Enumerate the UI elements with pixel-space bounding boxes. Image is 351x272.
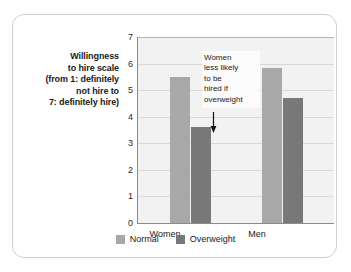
gridline-7 [138,37,334,38]
y-axis-title-line: not hire to [19,86,119,98]
y-tick-4: 4 [117,113,133,122]
chart-legend: Normal Overweight [0,234,351,244]
y-axis-title-line: 7: definitely hire) [19,97,119,109]
annotation-line: hired if [204,84,258,94]
annotation-line: less likely [204,63,258,73]
y-axis-title-line: Willingness [19,51,119,63]
gridline-1 [138,196,334,197]
y-tick-7: 7 [117,33,133,42]
bar-women-overweight [191,127,211,223]
annotation-line: Women [204,53,258,63]
gridline-4 [138,117,334,118]
y-axis-title-line: to hire scale [19,63,119,75]
y-tick-6: 6 [117,60,133,69]
legend-label-overweight: Overweight [190,234,236,244]
gridline-2 [138,170,334,171]
y-tick-5: 5 [117,86,133,95]
y-tick-2: 2 [117,166,133,175]
figure-frame: Willingness to hire scale (from 1: defin… [12,14,337,258]
y-axis-title-line: (from 1: definitely [19,74,119,86]
legend-swatch-overweight [176,235,185,244]
legend-swatch-normal [116,235,125,244]
gridline-3 [138,143,334,144]
annotation-line: to be [204,74,258,84]
y-tick-1: 1 [117,192,133,201]
bar-men-overweight [283,98,303,223]
annotation-callout: Women less likely to be hired if overwei… [202,51,260,108]
bar-men-normal [262,68,282,223]
y-axis-tick-labels: 7 6 5 4 3 2 1 0 [113,37,133,223]
y-tick-3: 3 [117,139,133,148]
down-arrow-icon [210,112,217,134]
bar-women-normal [170,77,190,223]
legend-entry-normal: Normal [116,234,159,244]
legend-label-normal: Normal [130,234,159,244]
legend-entry-overweight: Overweight [176,234,236,244]
annotation-line: overweight [204,95,258,105]
y-tick-0: 0 [117,219,133,228]
y-axis-title: Willingness to hire scale (from 1: defin… [19,51,119,109]
